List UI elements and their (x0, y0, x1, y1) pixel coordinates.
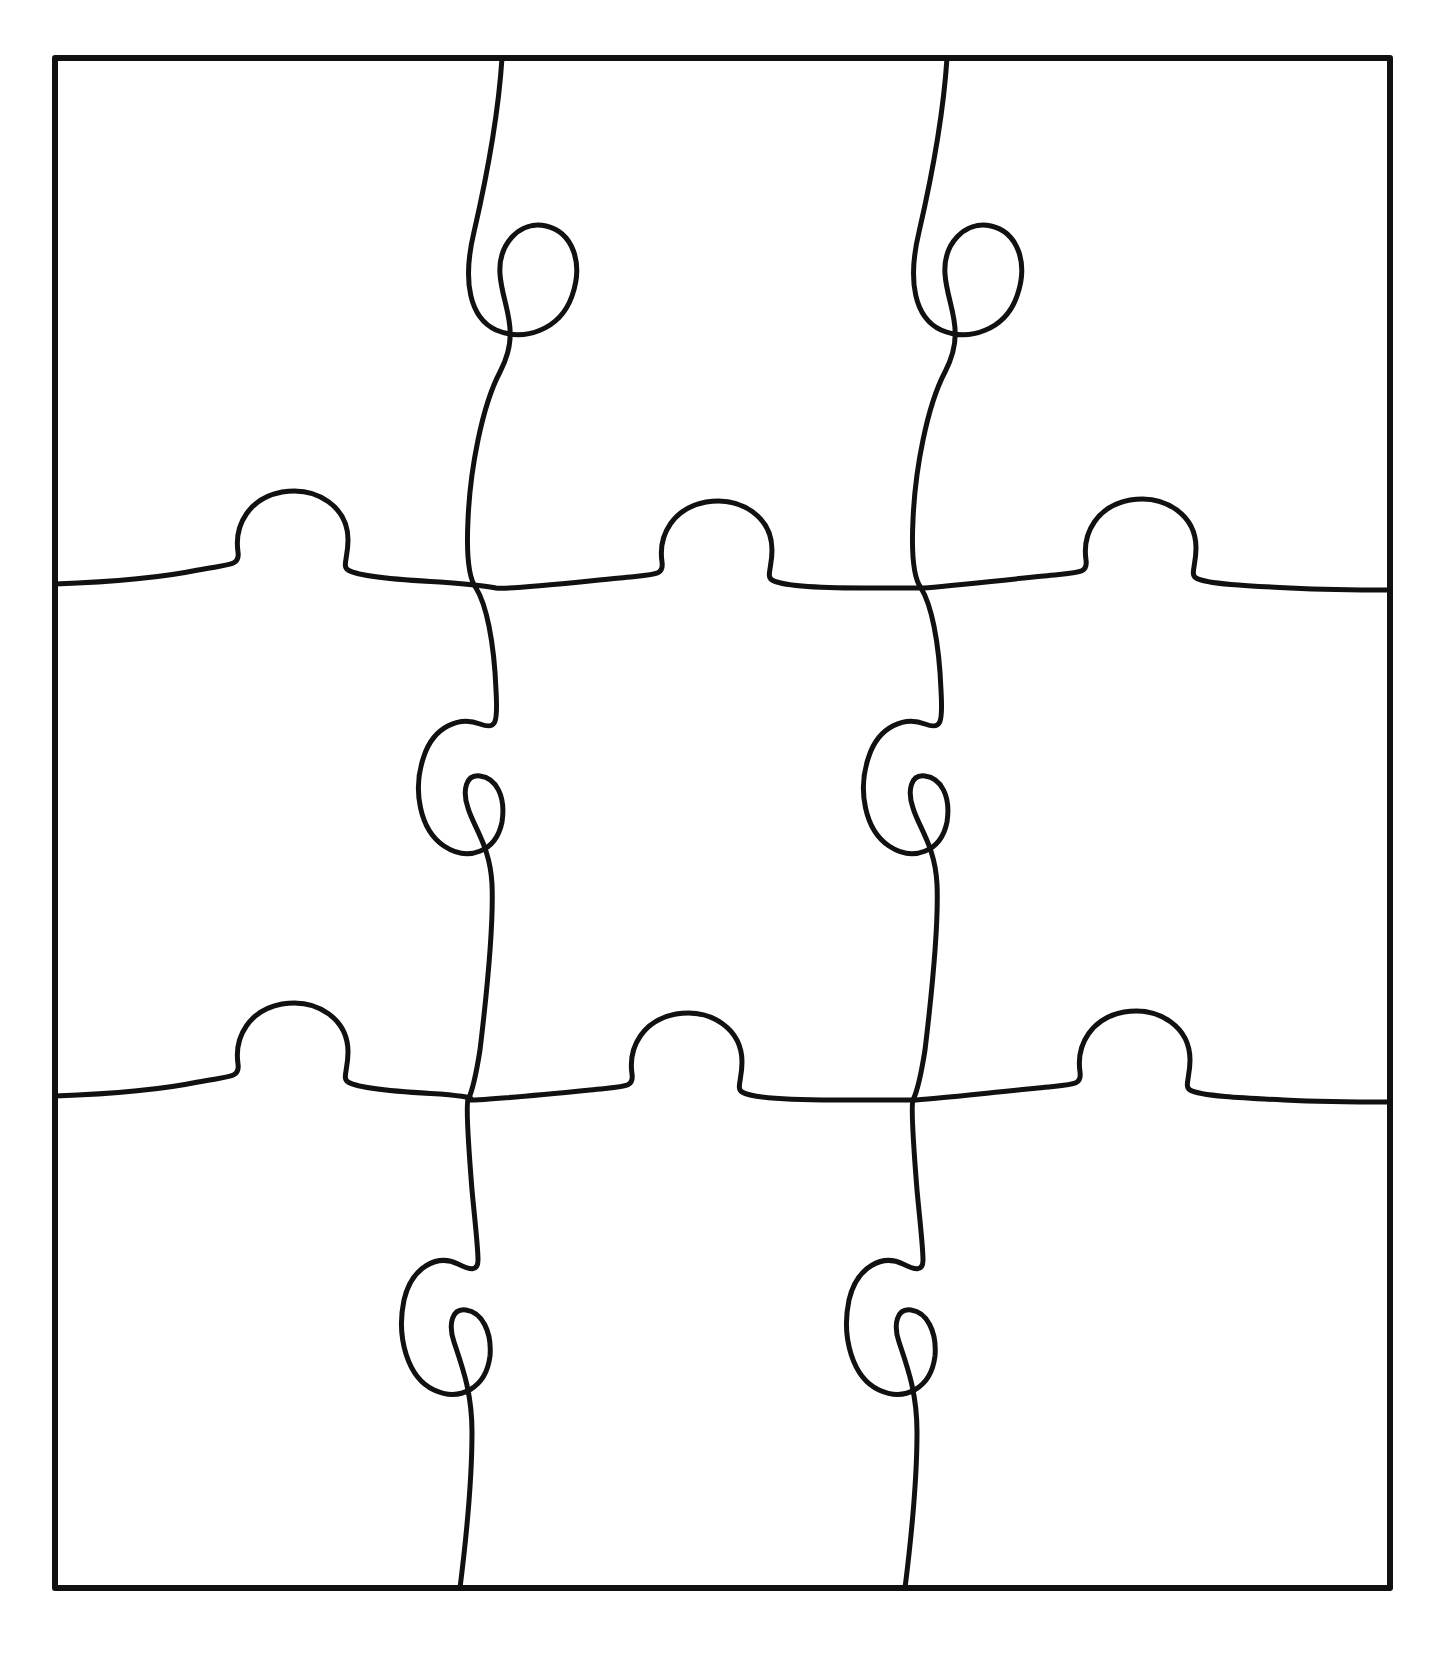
canvas-background (0, 0, 1451, 1676)
puzzle-canvas (0, 0, 1451, 1676)
jigsaw-puzzle-drawing (0, 0, 1451, 1676)
